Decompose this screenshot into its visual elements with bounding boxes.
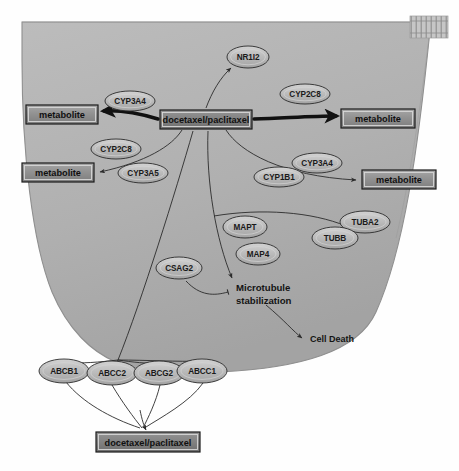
node-cyp3a5-left[interactable]: CYP3A5	[118, 163, 168, 183]
pathway-diagram-canvas: metabolite metabolite metabolite metabol…	[0, 0, 459, 471]
node-csag2[interactable]: CSAG2	[156, 257, 202, 279]
cell-outline	[22, 22, 430, 373]
edge-abcc2-to-drug-bottom	[112, 385, 142, 428]
box-metabolite-left-bottom[interactable]: metabolite	[22, 163, 94, 182]
node-cyp2c8-left[interactable]: CYP2C8	[91, 139, 141, 159]
node-cyp3a4-left[interactable]: CYP3A4	[105, 91, 155, 111]
label-microtubule-stabilization-line2: stabilization	[236, 295, 292, 306]
node-mapt[interactable]: MAPT	[223, 216, 267, 238]
node-abcb1[interactable]: ABCB1	[39, 359, 89, 383]
label-cell-death: Cell Death	[310, 334, 354, 344]
node-abcc1[interactable]: ABCC1	[177, 359, 227, 383]
membrane-hatch-pattern	[410, 16, 448, 38]
box-metabolite-left-top[interactable]: metabolite	[26, 105, 98, 124]
box-drug-bottom[interactable]: docetaxel/paclitaxel	[96, 432, 200, 452]
cell-membrane-body	[22, 22, 430, 373]
node-tubb[interactable]: TUBB	[312, 227, 358, 249]
pathway-diagram-svg: metabolite metabolite metabolite metabol…	[0, 0, 459, 471]
edge-abcg2-to-drug-bottom	[143, 385, 160, 428]
box-metabolite-right-top[interactable]: metabolite	[341, 109, 415, 128]
node-cyp3a4-right[interactable]: CYP3A4	[292, 153, 342, 173]
node-cyp1b1[interactable]: CYP1B1	[254, 167, 304, 187]
box-metabolite-right-bottom[interactable]: metabolite	[362, 170, 436, 189]
edge-abcc1-to-drug-bottom	[146, 383, 203, 427]
box-drug-center[interactable]: docetaxel/paclitaxel	[160, 110, 252, 129]
node-cyp2c8-right[interactable]: CYP2C8	[280, 84, 330, 104]
label-microtubule-stabilization-line1: Microtubule	[236, 282, 290, 293]
edge-abcb1-to-drug-bottom	[66, 382, 140, 428]
node-abcc2[interactable]: ABCC2	[87, 361, 137, 385]
node-map4[interactable]: MAP4	[236, 243, 280, 265]
node-nr1i2[interactable]: NR1I2	[227, 46, 269, 68]
node-abcg2[interactable]: ABCG2	[134, 361, 184, 385]
